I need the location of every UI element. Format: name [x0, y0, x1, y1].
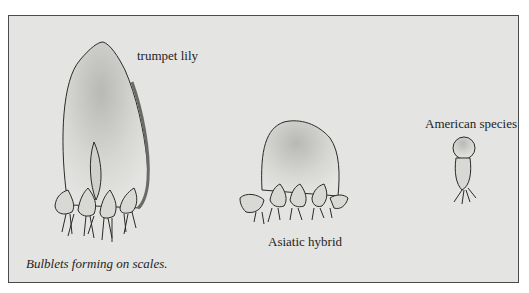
american-species-label: American species — [425, 116, 517, 131]
american-species-scale-icon — [453, 137, 476, 204]
asiatic-hybrid-label: Asiatic hybrid — [268, 234, 343, 249]
trumpet-lily-label: trumpet lily — [137, 48, 199, 63]
lily-bulbs-illustration: trumpet lily Asiatic hybrid American spe… — [0, 0, 529, 293]
figure-caption: Bulblets forming on scales. — [26, 256, 168, 271]
asiatic-hybrid-scale-icon — [240, 121, 348, 224]
trumpet-lily-scale-icon — [55, 42, 148, 242]
